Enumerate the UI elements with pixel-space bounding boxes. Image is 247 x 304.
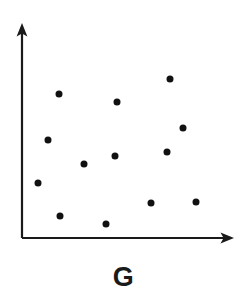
data-points-group: [35, 76, 200, 228]
data-point: [114, 99, 121, 106]
scatter-plot-canvas: [0, 0, 247, 304]
plot-label: G: [0, 264, 247, 291]
data-point: [45, 137, 52, 144]
data-point: [103, 221, 110, 228]
data-point: [148, 200, 155, 207]
data-point: [81, 161, 88, 168]
data-point: [193, 199, 200, 206]
data-point: [57, 213, 64, 220]
data-point: [112, 153, 119, 160]
data-point: [35, 180, 42, 187]
data-point: [164, 149, 171, 156]
data-point: [180, 125, 187, 132]
axes-group: [17, 23, 234, 243]
data-point: [167, 76, 174, 83]
scatter-plot-figure: G: [0, 0, 247, 304]
data-point: [56, 91, 63, 98]
